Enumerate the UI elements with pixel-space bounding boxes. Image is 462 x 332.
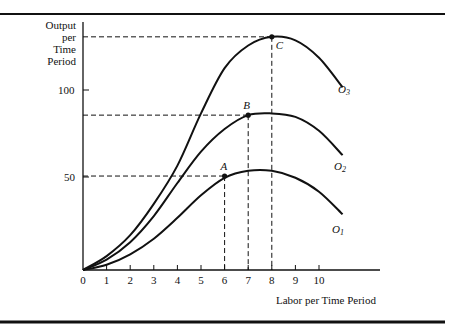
- series-label-o3: O3: [338, 83, 350, 99]
- y-label-line: per: [20, 31, 76, 43]
- y-tick-label: 50: [64, 171, 75, 183]
- y-label-line: Time: [20, 43, 76, 55]
- curves: [83, 37, 343, 270]
- point-c: [269, 34, 274, 39]
- y-label-line: Period: [20, 55, 76, 67]
- curve-o3: [83, 37, 343, 270]
- x-tick-label: 3: [151, 274, 157, 286]
- point-a: [222, 173, 227, 178]
- point-label-c: C: [276, 39, 283, 51]
- guide-lines: [83, 37, 272, 270]
- x-tick-label: 8: [269, 274, 275, 286]
- curve-o2: [83, 113, 343, 270]
- x-tick-label: 4: [175, 274, 181, 286]
- curve-o1: [83, 170, 343, 270]
- x-tick-label: 9: [293, 274, 299, 286]
- x-tick-label: 7: [245, 274, 251, 286]
- x-tick-label: 2: [127, 274, 133, 286]
- point-b: [246, 113, 251, 118]
- y-tick-label: 100: [58, 84, 75, 96]
- point-label-a: A: [221, 160, 228, 172]
- x-tick-label: 5: [198, 274, 204, 286]
- y-axis-label: Output per Time Period: [20, 19, 76, 67]
- x-tick-label: 6: [222, 274, 228, 286]
- point-label-b: B: [243, 99, 250, 111]
- x-tick-label: 10: [314, 274, 325, 286]
- series-label-o1: O1: [332, 223, 344, 239]
- y-label-line: Output: [20, 19, 76, 31]
- series-label-o2: O2: [334, 160, 346, 176]
- x-axis-label: Labor per Time Period: [276, 294, 376, 306]
- x-tick-label: 1: [104, 274, 110, 286]
- x-tick-label: 0: [80, 274, 86, 286]
